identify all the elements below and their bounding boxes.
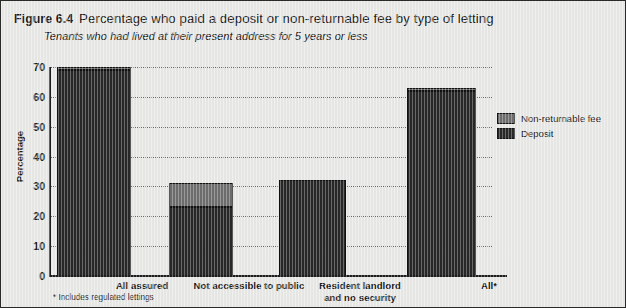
y-axis-title: Percentage xyxy=(14,117,25,197)
figure-panel: Figure 6.4Percentage who paid a deposit … xyxy=(0,0,626,308)
bar-column xyxy=(279,67,346,276)
legend-item: Non-returnable fee xyxy=(497,113,601,124)
figure-number: Figure 6.4 xyxy=(14,12,73,26)
x-tick-label-line: and no security xyxy=(290,292,430,304)
legend: Non-returnable feeDeposit xyxy=(497,113,601,143)
bar-column xyxy=(407,67,476,276)
bar-column xyxy=(169,67,233,276)
y-tick-label: 10 xyxy=(19,240,45,252)
figure-title: Figure 6.4Percentage who paid a deposit … xyxy=(14,11,615,26)
bar-segment-fee xyxy=(57,67,131,70)
legend-label: Non-returnable fee xyxy=(521,113,601,124)
x-tick-label-line: Resident landlord xyxy=(290,280,430,292)
figure-header: Figure 6.4Percentage who paid a deposit … xyxy=(14,11,615,42)
bar-segment-fee xyxy=(407,88,476,91)
bar-segment-deposit xyxy=(407,91,476,276)
bar-column xyxy=(57,67,131,276)
legend-label: Deposit xyxy=(521,128,554,139)
figure-footnote: * Includes regulated lettings xyxy=(53,293,154,302)
figure-title-text: Percentage who paid a deposit or non-ret… xyxy=(79,11,494,26)
plot-area xyxy=(49,67,492,276)
y-tick-label: 70 xyxy=(19,61,45,73)
x-tick-label: Resident landlordand no security xyxy=(290,280,430,303)
y-tick-label: 20 xyxy=(19,210,45,222)
x-axis-line xyxy=(49,275,507,277)
y-axis-line xyxy=(49,67,51,277)
x-tick-label-line: All* xyxy=(419,280,559,292)
bar-segment-deposit xyxy=(169,207,233,276)
legend-swatch xyxy=(497,113,515,124)
y-tick-label: 0 xyxy=(19,270,45,282)
legend-item: Deposit xyxy=(497,128,601,139)
bar-segment-deposit xyxy=(57,70,131,276)
x-tick-label: All* xyxy=(419,280,559,292)
figure-subtitle: Tenants who had lived at their present a… xyxy=(44,30,615,42)
bar-segment-fee xyxy=(169,183,233,207)
legend-swatch xyxy=(497,128,515,139)
bar-segment-deposit xyxy=(279,180,346,276)
y-tick-label: 60 xyxy=(19,91,45,103)
